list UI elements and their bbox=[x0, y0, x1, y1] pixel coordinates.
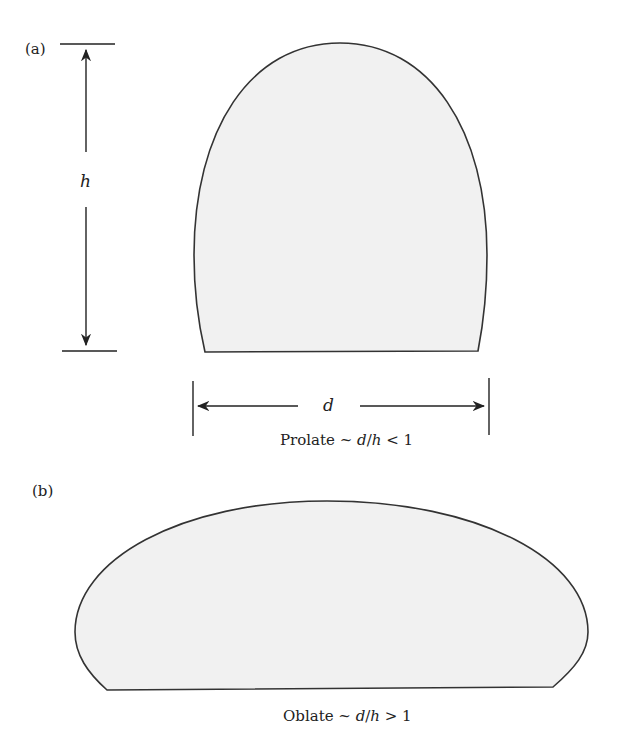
oblate-caption: Oblate ~ d/h > 1 bbox=[283, 707, 412, 725]
panel-b: (b) Oblate ~ d/h > 1 bbox=[32, 482, 588, 725]
panel-a-label: (a) bbox=[25, 40, 46, 58]
width-symbol: d bbox=[323, 395, 334, 415]
drop-shape-diagram: (a) h d Prolate ~ d/h < 1 (b) Oblate ~ d… bbox=[0, 0, 618, 756]
prolate-caption: Prolate ~ d/h < 1 bbox=[280, 431, 413, 449]
prolate-drop-shape bbox=[194, 43, 487, 352]
panel-b-label: (b) bbox=[32, 482, 53, 500]
oblate-drop-shape bbox=[75, 501, 588, 690]
height-symbol: h bbox=[80, 171, 91, 191]
panel-a: (a) h d Prolate ~ d/h < 1 bbox=[25, 40, 489, 449]
